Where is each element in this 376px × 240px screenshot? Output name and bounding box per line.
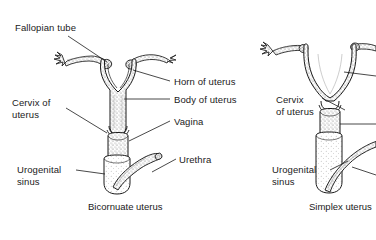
label-urogenital-sinus-line1: Urogenital (17, 164, 61, 176)
bicornuate-uterus-drawing (54, 52, 176, 194)
label-fallopian-tube: Fallopian tube (15, 22, 76, 34)
uterine-horns-and-body (100, 59, 136, 136)
label-cervix-of-uterus-line1: Cervix of (12, 97, 50, 109)
caption-simplex-uterus: Simplex uterus (309, 201, 372, 212)
simplex-left-fallopian-tube (260, 42, 301, 56)
label-cervix-of-uterus-line2: uterus (12, 109, 39, 121)
leader-simplex-urethra-offscreen (352, 167, 376, 175)
label-simplex-cervix-line1: Cervix (276, 94, 304, 106)
caption-bicornuate-uterus: Bicornuate uterus (88, 201, 162, 212)
label-horn-of-uterus: Horn of uterus (174, 76, 236, 88)
label-body-of-uterus: Body of uterus (174, 94, 237, 106)
leader-cervix-of-uterus (66, 108, 107, 133)
label-urogenital-sinus-line2: sinus (17, 176, 40, 188)
label-simplex-cervix-line2: of uterus (276, 106, 314, 118)
leader-horn-of-uterus (133, 70, 170, 81)
label-urethra: Urethra (179, 154, 211, 166)
leader-urogenital-sinus (76, 170, 105, 174)
left-fallopian-tube (54, 52, 107, 66)
label-simplex-urogenital-sinus-line1: Urogenital (272, 164, 316, 176)
right-fallopian-tube (132, 55, 176, 65)
leader-vagina (129, 121, 170, 141)
label-simplex-urogenital-sinus-line2: sinus (272, 176, 295, 188)
label-vagina: Vagina (174, 116, 203, 128)
